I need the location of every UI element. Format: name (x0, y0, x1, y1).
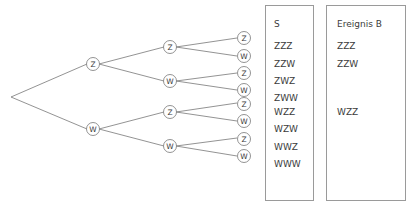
panel-b-row-5: WZZ (337, 107, 358, 117)
tree-edges (11, 38, 237, 156)
node-zzz-label: Z (241, 34, 246, 43)
panel-b-title: Ereignis B (337, 19, 382, 29)
panel-s-row-4: ZWW (274, 93, 298, 103)
node-www[interactable]: W (238, 150, 251, 163)
node-wzw-label: W (240, 117, 248, 126)
node-zzw[interactable]: W (238, 50, 251, 63)
node-zww-label: W (240, 86, 248, 95)
node-ww-label: W (166, 142, 174, 151)
diagram-canvas: Z W Z W Z W (0, 0, 413, 214)
node-zwz[interactable]: Z (238, 67, 251, 80)
panel-s-row-7: WWZ (274, 142, 298, 152)
edge-wz-wzz (176, 103, 237, 112)
node-wz[interactable]: Z (164, 106, 177, 119)
edge-wz-wzw (176, 112, 237, 121)
node-wwz-label: Z (241, 135, 246, 144)
edge-zz-zzz (176, 38, 237, 47)
panel-s-row-1: ZZZ (274, 41, 293, 51)
edge-root-w (11, 97, 87, 129)
node-w[interactable]: W (87, 123, 100, 136)
edge-zw-zwz (176, 73, 237, 81)
edge-ww-www (176, 146, 237, 156)
node-zzz[interactable]: Z (238, 32, 251, 45)
edge-z-zw (99, 64, 164, 81)
event-b-panel: Ereignis B ZZZ ZZW WZZ (326, 5, 406, 201)
node-zwz-label: Z (241, 69, 246, 78)
edge-z-zz (99, 47, 164, 64)
panel-b-row-2: ZZW (337, 59, 358, 69)
node-zw[interactable]: W (164, 75, 177, 88)
node-zz-label: Z (167, 43, 172, 52)
node-zw-label: W (166, 77, 174, 86)
edge-ww-wwz (176, 138, 237, 146)
node-wzw[interactable]: W (238, 115, 251, 128)
panel-s-row-5: WZZ (274, 107, 295, 117)
node-www-label: W (240, 152, 248, 161)
panel-s-row-6: WZW (274, 124, 298, 134)
node-zzw-label: W (240, 52, 248, 61)
panel-b-row-1: ZZZ (337, 41, 356, 51)
edge-zz-zzw (176, 47, 237, 56)
tree-nodes: Z W Z W Z W (87, 32, 251, 163)
node-ww[interactable]: W (164, 140, 177, 153)
node-z-label: Z (90, 60, 95, 69)
node-zww[interactable]: W (238, 84, 251, 97)
node-wzz-label: Z (241, 100, 246, 109)
edge-w-ww (99, 129, 164, 146)
node-w-label: W (89, 125, 97, 134)
outcome-space-panel: S ZZZ ZZW ZWZ ZWW WZZ WZW WWZ WWW (265, 5, 314, 201)
node-zz[interactable]: Z (164, 41, 177, 54)
edge-zw-zww (176, 81, 237, 90)
probability-tree: Z W Z W Z W (0, 0, 260, 214)
node-z[interactable]: Z (87, 58, 100, 71)
edge-w-wz (99, 112, 164, 129)
node-wz-label: Z (167, 108, 172, 117)
panel-s-title: S (274, 19, 280, 29)
node-wzz[interactable]: Z (238, 98, 251, 111)
panel-s-row-8: WWW (274, 159, 301, 169)
edge-root-z (11, 64, 87, 97)
node-wwz[interactable]: Z (238, 133, 251, 146)
panel-s-row-3: ZWZ (274, 76, 295, 86)
panel-s-row-2: ZZW (274, 59, 295, 69)
